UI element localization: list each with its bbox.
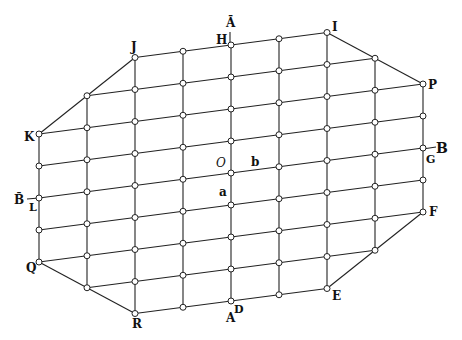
row-line (135, 51, 183, 57)
lattice-node (228, 202, 234, 208)
lattice-node (228, 42, 234, 48)
row-line (231, 231, 279, 237)
row-line (279, 289, 327, 295)
vertex-label: G (426, 153, 435, 166)
lattice-node (84, 157, 90, 163)
lattice-node (372, 247, 378, 253)
row-line (375, 116, 423, 122)
row-line (327, 122, 375, 128)
lattice-node (180, 48, 186, 54)
lattice-node (420, 177, 426, 183)
vertex-label: L (29, 201, 37, 214)
vertex-label: D (234, 303, 244, 316)
lattice-node (228, 234, 234, 240)
vertex-label: R (132, 317, 143, 331)
lattice-node (276, 100, 282, 106)
lattice-node (180, 272, 186, 278)
lattice-node (180, 240, 186, 246)
row-line (87, 250, 135, 256)
lattice-node (132, 183, 138, 189)
lattice-node (420, 81, 426, 87)
vertex-label: Q (26, 261, 36, 275)
lattice-node (324, 62, 330, 68)
lattice-diagram: JHĀIPBGFEDARQLB̄KOba (0, 0, 462, 340)
row-line (327, 186, 375, 192)
vertex-label: Ā (225, 15, 236, 30)
row-line (231, 103, 279, 109)
lattice-node (324, 94, 330, 100)
lattice-node (180, 176, 186, 182)
row-line (135, 275, 183, 281)
row-line (279, 33, 327, 39)
row-line (231, 199, 279, 205)
lattice-node (180, 144, 186, 150)
row-line (231, 135, 279, 141)
vertex-label: B̄ (14, 191, 24, 207)
row-line (327, 90, 375, 96)
lattice-node (324, 254, 330, 260)
row-line (279, 97, 327, 103)
row-line (279, 225, 327, 231)
row-line (327, 218, 375, 224)
row-line (183, 173, 231, 179)
vertex-label: J (130, 40, 137, 54)
row-line (183, 237, 231, 243)
lattice-node (84, 189, 90, 195)
row-line (183, 269, 231, 275)
row-line (183, 77, 231, 83)
lattice-node (372, 215, 378, 221)
lattice-node (132, 87, 138, 93)
lattice-node (132, 311, 138, 317)
lattice-node (276, 68, 282, 74)
lattice-node (180, 80, 186, 86)
lattice-node (324, 286, 330, 292)
lattice-node (276, 36, 282, 42)
lattice-node (228, 170, 234, 176)
lattice-node (180, 304, 186, 310)
lattice-node (420, 209, 426, 215)
row-line (183, 301, 231, 307)
lattice-node (276, 228, 282, 234)
lattice-node (276, 292, 282, 298)
row-line (183, 109, 231, 115)
row-line (135, 211, 183, 217)
row-line (279, 193, 327, 199)
lattice-node (180, 208, 186, 214)
boundary-edge (87, 288, 135, 314)
lattice-node (228, 106, 234, 112)
lattice-node (372, 55, 378, 61)
lattice-node (84, 125, 90, 131)
lattice-node (324, 30, 330, 36)
vertex-label: H (216, 33, 227, 47)
lattice-node (36, 227, 42, 233)
lattice-node (132, 151, 138, 157)
row-line (375, 148, 423, 154)
row-line (87, 122, 135, 128)
boundary-edge (375, 58, 423, 84)
lattice-node (228, 74, 234, 80)
lattice-node (228, 138, 234, 144)
vertex-label: E (332, 289, 341, 303)
row-line (231, 71, 279, 77)
lattice-node (36, 131, 42, 137)
lattice-node (180, 112, 186, 118)
row-line (135, 243, 183, 249)
row-line (327, 58, 375, 64)
lattice-node (132, 215, 138, 221)
row-line (135, 307, 183, 313)
row-line (39, 224, 87, 230)
lattice-node (420, 113, 426, 119)
vertex-label: F (429, 205, 438, 219)
lattice-node (372, 87, 378, 93)
row-line (87, 186, 135, 192)
lattice-node (324, 126, 330, 132)
vertex-label: O (216, 156, 226, 170)
row-line (183, 205, 231, 211)
row-line (135, 147, 183, 153)
row-line (87, 218, 135, 224)
lattice-node (372, 119, 378, 125)
vertex-label: A (225, 311, 236, 325)
row-line (87, 282, 135, 288)
row-line (39, 160, 87, 166)
row-line (327, 154, 375, 160)
